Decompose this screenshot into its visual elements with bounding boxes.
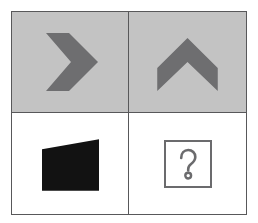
answer-placeholder-box[interactable] [164, 140, 212, 188]
matrix-frame [11, 11, 247, 215]
matrix-cell-bottom-right[interactable] [129, 113, 246, 214]
chevron-right-icon [12, 12, 128, 112]
matrix-cell-top-left[interactable] [12, 12, 129, 113]
matrix-cell-top-right[interactable] [129, 12, 246, 113]
puzzle-root [0, 0, 258, 223]
chevron-up-icon [129, 12, 246, 112]
question-mark-icon [173, 147, 203, 181]
black-quadrilateral-shape [12, 113, 128, 214]
matrix-cell-bottom-left[interactable] [12, 113, 129, 214]
